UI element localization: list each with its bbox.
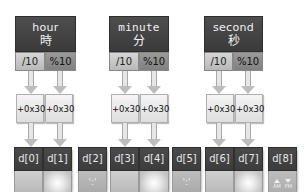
cell-d1: d[1] (43, 147, 72, 191)
unit-name: hour (16, 21, 75, 34)
cell-value (110, 171, 139, 192)
unit-kanji: 時 (16, 34, 75, 48)
cell-d5: d[5] ':' (172, 147, 201, 191)
arrow-down-icon (53, 71, 67, 94)
minute-unit-box: minute 分 (109, 16, 169, 52)
add-0x30-box: +0x30 (111, 94, 139, 123)
arrow-down-icon (147, 71, 161, 94)
cell-value (205, 171, 234, 192)
cell-label: d[0] (14, 147, 43, 171)
arrow-down-icon (118, 123, 132, 147)
arrow-down-icon (241, 71, 255, 94)
unit-kanji: 分 (110, 34, 168, 48)
pm-indicator: PM (285, 179, 292, 189)
cell-label: d[3] (110, 147, 139, 171)
cell-d2: d[2] ':' (78, 147, 107, 191)
cell-value (234, 171, 263, 192)
arrow-down-icon (212, 123, 226, 147)
am-indicator: AM (273, 179, 281, 189)
cell-value (43, 171, 72, 192)
cell-d3: d[3] (110, 147, 139, 191)
arrow-down-icon (147, 123, 161, 147)
add-0x30-box: +0x30 (45, 94, 73, 123)
hour-div-op: /10 (15, 52, 45, 71)
hour-mod-op: %10 (45, 52, 76, 71)
cell-label: d[8] (268, 147, 297, 171)
second-mod-op: %10 (233, 52, 263, 71)
cell-label: d[7] (234, 147, 263, 171)
add-0x30-box: +0x30 (235, 94, 263, 123)
hour-unit-box: hour 時 (15, 16, 76, 52)
cell-label: d[2] (78, 147, 107, 171)
ampm-indicator: AM PM (268, 171, 297, 192)
add-0x30-box: +0x30 (16, 94, 44, 123)
minute-div-op: /10 (109, 52, 139, 71)
cell-value (139, 171, 169, 192)
second-div-op: /10 (204, 52, 233, 71)
cell-d6: d[6] (205, 147, 234, 191)
minute-mod-op: %10 (139, 52, 169, 71)
arrow-down-icon (241, 123, 255, 147)
arrow-down-icon (118, 71, 132, 94)
cell-label: d[5] (172, 147, 201, 171)
cell-label: d[6] (205, 147, 234, 171)
cell-value (14, 171, 43, 192)
unit-name: minute (110, 21, 168, 34)
cell-label: d[4] (139, 147, 169, 171)
arrow-down-icon (212, 71, 226, 94)
arrow-down-icon (53, 123, 67, 147)
unit-name: second (205, 21, 262, 34)
add-0x30-box: +0x30 (206, 94, 234, 123)
arrow-down-icon (24, 71, 38, 94)
am-label: AM (273, 183, 281, 189)
cell-value: ':' (78, 171, 107, 192)
pm-label: PM (285, 183, 292, 189)
arrow-down-icon (24, 123, 38, 147)
cell-d8: d[8] AM PM (268, 147, 297, 191)
add-0x30-box: +0x30 (140, 94, 168, 123)
cell-d4: d[4] (139, 147, 169, 191)
cell-d0: d[0] (14, 147, 43, 191)
unit-kanji: 秒 (205, 34, 262, 48)
second-unit-box: second 秒 (204, 16, 263, 52)
cell-label: d[1] (43, 147, 72, 171)
cell-d7: d[7] (234, 147, 263, 191)
cell-value: ':' (172, 171, 201, 192)
